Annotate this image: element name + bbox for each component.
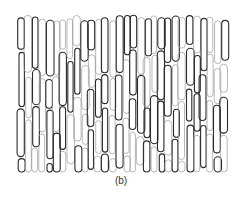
cell [129,99,136,130]
cell [130,132,135,172]
cell [207,101,213,131]
cell [124,156,130,172]
cell [151,147,157,172]
cell [165,160,172,172]
cell [187,89,192,121]
cell [32,17,38,68]
cell [173,65,179,106]
cell [164,65,171,116]
cell [187,125,194,172]
cell [94,156,101,172]
cell [172,139,178,172]
cell [130,15,136,48]
cell [110,21,116,77]
cell [75,146,82,172]
cell [26,120,32,172]
cell [32,148,38,172]
figure-caption: (b) [0,175,242,186]
cell [158,101,164,152]
cell [81,21,88,62]
cell [207,54,213,97]
cell [194,16,201,53]
cell [151,96,158,144]
cell [164,120,172,155]
cell [46,80,53,109]
cell [222,20,229,60]
cell [102,108,107,152]
cell [96,121,102,154]
cell [68,62,73,113]
cell [115,75,122,120]
cell [60,20,66,49]
cell [101,154,108,172]
cell [18,18,25,50]
cell [138,18,145,75]
cell [47,164,52,173]
cell [143,141,150,172]
cell [18,159,25,172]
cell [143,57,150,106]
cell [33,107,40,147]
cell [19,52,24,106]
cell [186,16,193,45]
cell [159,154,164,172]
cell [96,79,102,117]
cell [46,20,54,76]
cell [123,60,129,114]
cell [101,18,108,73]
cell [207,17,213,52]
cell [110,159,117,172]
cell [96,19,102,74]
cell [73,16,80,47]
cell [82,148,88,172]
cell [123,118,129,153]
cell [215,21,221,64]
cell [109,115,115,154]
cell [136,137,144,166]
cell [125,16,131,55]
cell [201,18,207,70]
cell [24,15,32,72]
cell [116,16,123,73]
cell [67,19,73,59]
cell [187,48,195,85]
cell [88,130,93,170]
cell [201,126,207,168]
cell [26,77,32,118]
cell [130,50,137,95]
cell-drawing [0,0,242,201]
cell [194,135,200,172]
cell [75,48,80,94]
cell [116,124,123,168]
cell [102,75,108,104]
cell [17,109,24,157]
cell [207,134,213,172]
cell [220,97,228,133]
cell [178,161,185,172]
cell [39,19,46,76]
